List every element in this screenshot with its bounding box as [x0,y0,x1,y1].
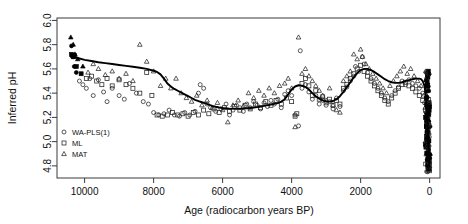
data-point [427,89,431,93]
legend: WA-PLS(1)MLMAT [62,128,110,159]
legend-marker-triangle [62,152,67,156]
data-point [355,57,360,61]
data-point [74,71,78,75]
data-point [286,76,291,80]
data-point [257,88,262,92]
data-point [338,104,342,108]
data-point [398,69,403,73]
data-point [110,86,114,90]
data-point [79,72,83,76]
data-point [174,76,179,80]
data-point [251,96,256,100]
data-point [300,71,305,75]
data-point [246,91,251,95]
smoothed-trend-curve [71,57,430,164]
x-tick-label: 2000 [350,186,373,197]
y-tick-label: 5.2 [43,110,54,124]
y-tick-label: 4.8 [43,158,54,172]
loess-curve [71,57,430,164]
data-point [69,35,74,39]
data-point [131,79,136,83]
data-point [408,66,413,70]
data-point [310,79,315,83]
x-tick-label: 0 [427,186,433,197]
data-point [297,124,301,128]
data-point [84,86,88,90]
data-point [262,93,267,97]
x-tick-label: 4000 [281,186,304,197]
data-point [110,69,115,73]
y-tick-label: 5.8 [43,37,54,51]
data-point [303,66,308,70]
data-point [395,74,400,78]
data-point [205,98,210,102]
data-point [202,108,206,112]
data-point [307,74,312,78]
data-point [145,71,149,75]
x-axis-ticks: 1000080006000400020000 [71,178,433,197]
data-point [374,76,379,80]
data-point [405,71,410,75]
data-point [215,100,220,104]
legend-label: ML [72,139,82,148]
data-point [117,94,121,98]
data-point [103,72,108,76]
data-point [158,83,163,87]
scatter-plot-svg: 1000080006000400020000 4.85.05.25.45.65.… [0,0,468,224]
data-series-markers [69,35,433,174]
chart-figure: 1000080006000400020000 4.85.05.25.45.65.… [0,0,468,224]
y-tick-label: 5.6 [43,62,54,76]
data-point [150,94,154,98]
data-point [102,90,106,94]
data-point [77,79,81,83]
data-point [324,103,328,107]
data-point [290,94,294,98]
data-point [341,79,346,83]
data-point [327,86,332,90]
legend-marker-square [62,141,66,145]
data-point [144,59,149,63]
data-point [384,91,389,95]
series-ml [69,52,431,172]
y-axis-title: Inferred pH [6,72,18,125]
data-point [138,42,143,46]
data-point [277,83,282,87]
y-tick-label: 5.4 [43,86,54,100]
data-point [296,35,301,39]
data-point [348,69,353,73]
data-point [290,100,294,104]
data-point [105,77,109,81]
y-axis-ticks: 4.85.05.25.45.65.86.0 [43,13,58,173]
data-point [86,70,91,74]
data-point [207,112,211,116]
data-point [351,52,356,56]
y-tick-label: 5.0 [43,134,54,148]
data-point [81,83,85,87]
data-point [74,64,78,68]
data-point [388,83,393,87]
data-point [96,66,101,70]
data-point [105,100,109,104]
y-tick-label: 6.0 [43,13,54,27]
data-point [317,102,321,106]
x-axis-title: Age (radiocarbon years BP) [184,204,314,216]
x-tick-label: 8000 [142,186,165,197]
data-point [298,49,302,53]
data-point [377,81,382,85]
data-point [131,86,135,90]
x-tick-label: 10000 [71,186,99,197]
data-point [100,83,104,87]
data-point [267,86,272,90]
data-point [122,97,126,101]
data-point [345,74,350,78]
data-point [146,102,150,106]
data-point [272,91,277,95]
legend-marker-circle [62,130,66,134]
data-point [198,83,202,87]
data-point [236,98,241,102]
data-point [202,86,206,90]
data-point [412,74,417,78]
data-point [313,83,318,87]
data-point [124,71,129,75]
data-point [269,98,273,102]
